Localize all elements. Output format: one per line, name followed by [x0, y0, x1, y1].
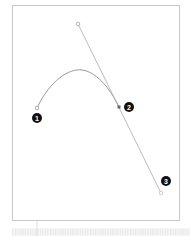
anchor-point-1[interactable] [35, 106, 39, 110]
badge-1-label: 1 [35, 115, 39, 122]
badge-1: 1 [32, 113, 42, 123]
anchor-point-2[interactable] [118, 106, 121, 109]
badge-3-label: 3 [164, 178, 168, 185]
badge-2: 2 [124, 102, 134, 112]
badge-3: 3 [161, 176, 171, 186]
handle-top-point[interactable] [76, 22, 80, 26]
handle-bottom-point[interactable] [159, 191, 163, 195]
badge-2-label: 2 [127, 104, 131, 111]
artboard-frame [13, 6, 180, 221]
bezier-diagram: 1 2 3 [0, 0, 190, 238]
